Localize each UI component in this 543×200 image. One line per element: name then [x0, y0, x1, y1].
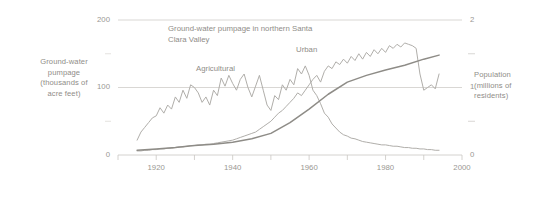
y-axis-label-left-line-2: pumpage [16, 68, 112, 79]
y-tick-label-left-100: 100 [78, 82, 110, 91]
chart-title: Ground-water pumpage in northern Santa C… [168, 23, 328, 45]
x-tick-label-1920: 1920 [140, 163, 172, 172]
series-annotation-urban: Urban [296, 45, 317, 54]
x-tick-label-2000: 2000 [446, 163, 478, 172]
x-tick-label-1980: 1980 [370, 163, 402, 172]
chart-title-text: Ground-water pumpage in northern Santa C… [168, 24, 312, 44]
x-tick-label-1940: 1940 [217, 163, 249, 172]
y-axis-label-left-line-1: Ground-water [16, 57, 112, 68]
series-line-urban [137, 43, 439, 151]
series-annotation-agricultural: Agricultural [196, 64, 235, 73]
data-series-group [137, 43, 439, 151]
x-axis [118, 155, 462, 160]
y-tick-label-left-0: 0 [78, 150, 110, 159]
y-tick-label-left-200: 200 [78, 15, 110, 24]
x-tick-label-1960: 1960 [293, 163, 325, 172]
y-tick-label-right-1: 1 [470, 82, 492, 91]
y-tick-label-right-0: 0 [470, 150, 492, 159]
y-tick-label-right-2: 2 [470, 15, 492, 24]
y-axis-label-right-line-3: residents) [474, 91, 540, 102]
series-line-population [137, 55, 439, 150]
y-axis-label-left: Ground-water pumpage (thousands of acre … [16, 57, 112, 99]
y-axis-label-right-line-1: Population [474, 70, 540, 81]
series-line-agricultural [137, 66, 439, 150]
